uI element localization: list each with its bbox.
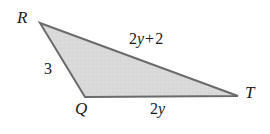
side-RQ-coefficient: 3	[44, 60, 52, 77]
vertex-label-R: R	[17, 9, 27, 26]
side-RT-constant: 2	[155, 30, 163, 47]
vertex-label-T: T	[245, 84, 254, 101]
vertex-label-Q: Q	[75, 100, 87, 117]
triangle-shape	[0, 0, 270, 134]
side-RT-coefficient: 2	[129, 30, 137, 47]
side-length-label-QT: 2y	[150, 101, 165, 117]
geometry-figure: R Q T 3 2y+2 2y	[0, 0, 270, 134]
side-RT-operator: +	[144, 30, 155, 47]
side-QT-coefficient: 2	[150, 100, 158, 117]
side-length-label-RQ: 3	[44, 61, 52, 77]
side-QT-variable: y	[158, 100, 165, 117]
side-length-label-RT: 2y+2	[129, 31, 163, 47]
